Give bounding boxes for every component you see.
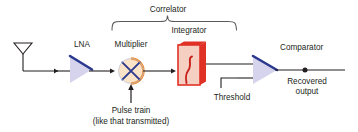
triangle-amplifier-icon [70,56,92,83]
junction-dot-icon [303,68,308,73]
label-correlator: Correlator [150,5,187,14]
step-level-icon [221,78,237,88]
label-integrator: Integrator [171,26,206,35]
label-pulse-train-line1: Pulse train [112,106,151,115]
wire-antenna-to-lna [23,69,70,74]
diagram-canvas: Correlator LNA Multip [0,0,358,132]
antenna-icon [14,43,32,71]
arrow-pulse-train-input [128,84,134,103]
label-pulse-train-line2: (like that transmitted) [93,117,170,126]
wire-multiplier-to-integrator [143,68,176,73]
label-comparator: Comparator [280,43,324,52]
label-recovered-output-line2: output [296,87,319,96]
label-multiplier: Multiplier [115,40,148,49]
circle-x-mixer-icon [119,59,144,84]
block-diagram-figure: Correlator LNA Multip [0,0,358,132]
integral-sign-icon [178,42,206,86]
label-recovered-output-line1: Recovered [287,77,327,86]
label-threshold: Threshold [214,93,251,102]
triangle-comparator-icon [253,56,277,84]
label-lna: LNA [74,40,90,49]
